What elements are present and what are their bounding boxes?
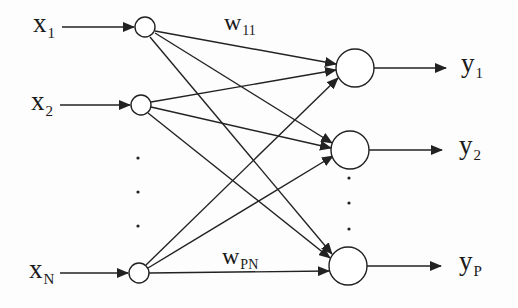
input-label-xN: xN [29, 256, 54, 287]
connection-x2-y2 [151, 107, 331, 148]
output-label-yP: yP [459, 248, 482, 279]
weight-label-w11: w11 [224, 10, 256, 38]
input-node-x1 [135, 17, 155, 37]
output-node-yP [329, 247, 367, 285]
connection-xN-y1 [146, 78, 338, 265]
connection-x1-y2 [155, 33, 332, 143]
input-label-x2: x2 [31, 88, 53, 119]
connection-x1-yP [150, 37, 332, 254]
output-node-y1 [336, 49, 374, 87]
input-node-x2 [131, 95, 151, 115]
input-label-x1: x1 [33, 10, 55, 41]
input-node-xN [129, 263, 149, 283]
neural-network-diagram: x1 x2 xN w11 wPN y1 y2 yP [0, 0, 518, 308]
output-node-y2 [331, 131, 369, 169]
weight-label-wPN: wPN [222, 244, 258, 272]
input-ellipsis [136, 156, 139, 227]
output-label-y1: y1 [461, 50, 483, 81]
network-graph [0, 0, 518, 308]
output-label-y2: y2 [459, 132, 481, 163]
connection-x2-y1 [151, 70, 336, 102]
output-ellipsis [347, 176, 350, 230]
